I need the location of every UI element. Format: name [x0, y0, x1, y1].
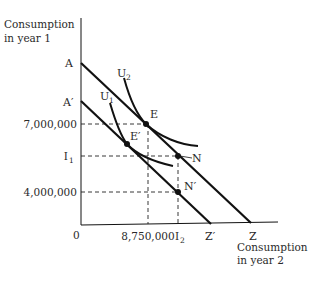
label-U2-sub: 2	[126, 73, 131, 82]
label-N: N	[192, 152, 202, 165]
x-tick-8750000: 8,750,000	[121, 230, 174, 242]
label-U1-main: U	[100, 90, 109, 103]
x-tick-I2: I 2	[175, 230, 185, 245]
origin-label: 0	[73, 229, 80, 241]
label-U2: U 2	[117, 67, 131, 82]
intertemporal-consumption-diagram: Consumption in year 1 Consumption in yea…	[0, 0, 312, 286]
y-tick-I1: I 1	[64, 150, 74, 165]
point-E	[143, 121, 149, 127]
x-axis	[81, 222, 278, 225]
point-N-prime	[175, 189, 181, 195]
label-E: E	[150, 108, 158, 121]
label-N-prime: N′	[184, 180, 197, 193]
label-A-prime: A′	[62, 96, 74, 109]
x-axis-title-line2: in year 2	[237, 254, 284, 266]
label-A: A	[64, 57, 74, 70]
y-axis-title-line2: in year 1	[4, 32, 51, 44]
label-U1-sub: 1	[109, 96, 114, 105]
indifference-curve-U1	[110, 103, 173, 166]
y-tick-7000000: 7,000,000	[24, 118, 77, 130]
budget-line-AZ	[81, 63, 251, 223]
y-tick-I1-sub: 1	[69, 156, 74, 165]
y-tick-I1-main: I	[64, 150, 68, 162]
y-tick-4000000: 4,000,000	[24, 186, 77, 198]
label-U2-main: U	[117, 67, 126, 80]
x-tick-I2-sub: 2	[180, 236, 185, 245]
x-tick-I2-main: I	[175, 230, 179, 242]
label-Z-prime: Z′	[205, 230, 216, 243]
label-Z: Z	[249, 230, 257, 243]
y-axis-title-line1: Consumption	[4, 18, 75, 30]
label-E-prime: E′	[130, 130, 141, 143]
x-axis-title-line1: Consumption	[237, 241, 308, 253]
